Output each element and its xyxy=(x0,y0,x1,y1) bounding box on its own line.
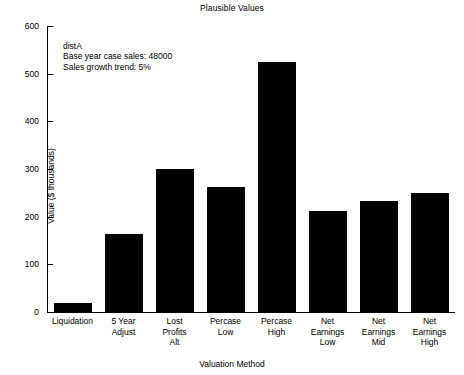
y-tick-mark xyxy=(48,26,53,27)
y-tick-mark xyxy=(48,264,53,265)
y-tick-mark xyxy=(48,121,53,122)
x-axis-spine xyxy=(47,312,455,313)
annotation-line: Sales growth trend: 5% xyxy=(63,62,172,72)
x-tick-label: Net Earnings High xyxy=(404,316,455,348)
y-tick-mark xyxy=(48,312,53,313)
x-tick-label: Net Earnings Mid xyxy=(353,316,404,348)
x-tick-label: Liquidation xyxy=(47,316,98,327)
chart-figure: Plausible Values 0100200300400500600 Liq… xyxy=(0,0,464,375)
y-tick-label: 200 xyxy=(25,212,39,222)
bar xyxy=(258,62,296,312)
x-tick-label: Percase Low xyxy=(200,316,251,337)
bar xyxy=(105,234,143,312)
x-tick-label: Percase High xyxy=(251,316,302,337)
annotation-line: distA xyxy=(63,41,172,51)
x-tick-label: Lost Profits Alt xyxy=(149,316,200,348)
x-axis-label: Valuation Method xyxy=(0,359,464,369)
y-axis-label: Value ($ thousands) xyxy=(46,148,56,223)
chart-title: Plausible Values xyxy=(0,3,464,13)
y-tick-mark xyxy=(48,74,53,75)
bar xyxy=(360,201,398,312)
y-tick-label: 300 xyxy=(25,164,39,174)
y-tick-label: 400 xyxy=(25,116,39,126)
x-tick-label: Net Earnings Low xyxy=(302,316,353,348)
y-tick-label: 100 xyxy=(25,259,39,269)
bar xyxy=(411,193,449,312)
y-tick-label: 600 xyxy=(25,21,39,31)
y-tick-label: 0 xyxy=(34,307,39,317)
x-tick-label: 5 Year Adjust xyxy=(98,316,149,337)
annotation-textbox: distABase year case sales: 48000Sales gr… xyxy=(63,41,172,72)
annotation-line: Base year case sales: 48000 xyxy=(63,51,172,61)
bar xyxy=(54,303,92,312)
bar xyxy=(309,211,347,312)
y-tick-label: 500 xyxy=(25,69,39,79)
bar xyxy=(156,169,194,312)
bar xyxy=(207,187,245,312)
